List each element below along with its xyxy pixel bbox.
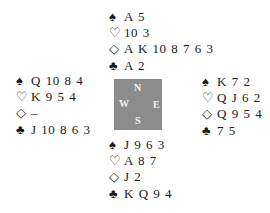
north-clubs-row: ♣A 2	[109, 58, 214, 74]
compass-west-label: W	[119, 98, 129, 109]
diamond-icon: ◇	[202, 106, 217, 122]
north-clubs: A 2	[124, 58, 145, 73]
east-spades: K 7 2	[217, 74, 250, 89]
north-spades: A 5	[124, 9, 145, 24]
south-hearts: A 8 7	[124, 153, 157, 168]
north-diamonds: A K 10 8 7 6 3	[124, 41, 214, 56]
south-hand: ♠J 9 6 3 ♡A 8 7 ◇J 2 ♣K Q 9 4	[109, 137, 172, 202]
heart-icon: ♡	[16, 89, 31, 105]
spade-icon: ♠	[109, 137, 124, 153]
north-diamonds-row: ◇A K 10 8 7 6 3	[109, 41, 214, 57]
south-diamonds: J 2	[124, 169, 141, 184]
heart-icon: ♡	[109, 25, 124, 41]
heart-icon: ♡	[109, 153, 124, 169]
heart-icon: ♡	[202, 90, 217, 106]
club-icon: ♣	[202, 123, 217, 139]
east-clubs: 7 5	[217, 123, 236, 138]
east-hearts: Q J 6 2	[217, 90, 261, 105]
club-icon: ♣	[109, 186, 124, 202]
west-hearts-row: ♡K 9 5 4	[16, 89, 91, 105]
west-hearts: K 9 5 4	[31, 89, 76, 104]
spade-icon: ♠	[202, 74, 217, 90]
west-diamonds: –	[31, 105, 38, 120]
north-hearts-row: ♡10 3	[109, 25, 214, 41]
east-diamonds-row: ◇Q 9 5 4	[202, 106, 262, 122]
compass-north-label: N	[134, 82, 141, 93]
club-icon: ♣	[109, 58, 124, 74]
compass-south-label: S	[135, 115, 141, 126]
east-diamonds: Q 9 5 4	[217, 106, 262, 121]
spade-icon: ♠	[16, 73, 31, 89]
spade-icon: ♠	[109, 9, 124, 25]
east-hand: ♠K 7 2 ♡Q J 6 2 ◇Q 9 5 4 ♣7 5	[202, 74, 262, 139]
north-hearts: 10 3	[124, 25, 150, 40]
compass-box: N W E S	[114, 79, 162, 130]
diamond-icon: ◇	[109, 41, 124, 57]
east-hearts-row: ♡Q J 6 2	[202, 90, 262, 106]
compass-east-label: E	[153, 99, 160, 110]
diamond-icon: ◇	[109, 169, 124, 185]
west-clubs-row: ♣J 10 8 6 3	[16, 122, 91, 138]
north-hand: ♠A 5 ♡10 3 ◇A K 10 8 7 6 3 ♣A 2	[109, 9, 214, 74]
club-icon: ♣	[16, 122, 31, 138]
east-clubs-row: ♣7 5	[202, 123, 262, 139]
south-spades: J 9 6 3	[124, 137, 165, 152]
east-spades-row: ♠K 7 2	[202, 74, 262, 90]
west-clubs: J 10 8 6 3	[31, 122, 91, 137]
diamond-icon: ◇	[16, 105, 31, 121]
south-clubs-row: ♣K Q 9 4	[109, 186, 172, 202]
west-diamonds-row: ◇–	[16, 105, 91, 121]
south-spades-row: ♠J 9 6 3	[109, 137, 172, 153]
north-spades-row: ♠A 5	[109, 9, 214, 25]
south-diamonds-row: ◇J 2	[109, 169, 172, 185]
west-hand: ♠Q 10 8 4 ♡K 9 5 4 ◇– ♣J 10 8 6 3	[16, 73, 91, 138]
west-spades: Q 10 8 4	[31, 73, 83, 88]
south-clubs: K Q 9 4	[124, 186, 172, 201]
south-hearts-row: ♡A 8 7	[109, 153, 172, 169]
west-spades-row: ♠Q 10 8 4	[16, 73, 91, 89]
